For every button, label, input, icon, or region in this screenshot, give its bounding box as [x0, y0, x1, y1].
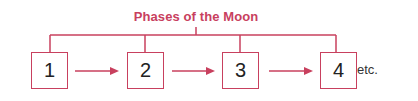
phase-box-4: 4: [320, 52, 357, 89]
arrow-head-icon: [110, 67, 119, 75]
phase-box-1: 1: [31, 52, 68, 89]
phase-label: 2: [140, 59, 151, 82]
etc-text: etc.: [357, 62, 378, 77]
arrow-head-icon: [304, 67, 313, 75]
phase-box-2: 2: [127, 52, 164, 89]
phase-label: 4: [333, 59, 344, 82]
arrow-head-icon: [206, 67, 215, 75]
phase-box-3: 3: [222, 52, 259, 89]
phase-label: 1: [44, 59, 55, 82]
phase-label: 3: [235, 59, 246, 82]
